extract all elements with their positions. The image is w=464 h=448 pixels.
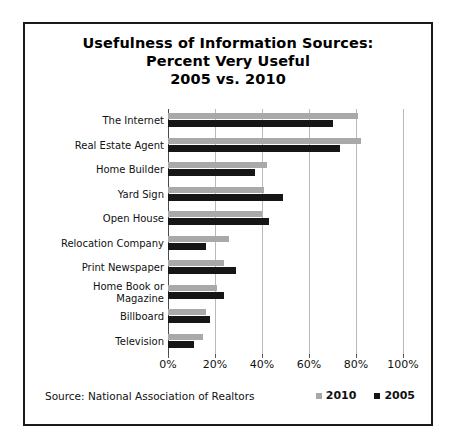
bar-group — [168, 281, 403, 306]
chart-footer: Source: National Association of Realtors… — [25, 386, 431, 414]
chart-title-line-3: 2005 vs. 2010 — [25, 70, 431, 88]
chart-legend: 2010 2005 — [316, 389, 415, 402]
bar-2005[interactable] — [168, 120, 333, 127]
bar-2005[interactable] — [168, 194, 283, 201]
category-label: Home Builder — [43, 164, 164, 176]
x-tick-label: 80% — [344, 358, 368, 371]
bar-2010[interactable] — [168, 260, 224, 266]
legend-label-2010: 2010 — [326, 389, 357, 402]
source-note: Source: National Association of Realtors — [45, 390, 255, 402]
bar-group — [168, 109, 403, 134]
bar-group — [168, 256, 403, 281]
legend-swatch-2005 — [374, 393, 380, 399]
chart-title: Usefulness of Information Sources: Perce… — [25, 34, 431, 88]
bar-group — [168, 134, 403, 159]
x-tick-label: 40% — [250, 358, 274, 371]
bar-2005[interactable] — [168, 267, 236, 274]
category-label: Billboard — [43, 311, 164, 323]
category-label: Home Book or Magazine — [43, 281, 164, 304]
gridline-100 — [403, 109, 404, 354]
bar-group — [168, 207, 403, 232]
bar-2010[interactable] — [168, 138, 361, 144]
chart-title-line-1: Usefulness of Information Sources: — [25, 34, 431, 52]
bar-group — [168, 305, 403, 330]
chart-title-line-2: Percent Very Useful — [25, 52, 431, 70]
bar-2010[interactable] — [168, 162, 267, 168]
x-tick-label: 0% — [159, 358, 176, 371]
category-label: Real Estate Agent — [43, 140, 164, 152]
bar-2010[interactable] — [168, 285, 217, 291]
bar-2010[interactable] — [168, 236, 229, 242]
bar-2010[interactable] — [168, 187, 264, 193]
legend-item-2005[interactable]: 2005 — [374, 389, 415, 402]
category-label: Television — [43, 336, 164, 348]
bar-group — [168, 232, 403, 257]
plot-area — [168, 109, 403, 354]
bar-2005[interactable] — [168, 292, 224, 299]
bar-2010[interactable] — [168, 334, 203, 340]
bar-2005[interactable] — [168, 243, 206, 250]
bar-2010[interactable] — [168, 113, 358, 119]
category-label: The Internet — [43, 115, 164, 127]
bar-2010[interactable] — [168, 309, 206, 315]
bar-2005[interactable] — [168, 341, 194, 348]
legend-swatch-2010 — [316, 393, 322, 399]
category-label: Relocation Company — [43, 238, 164, 250]
bar-2005[interactable] — [168, 169, 255, 176]
category-label: Open House — [43, 213, 164, 225]
legend-item-2010[interactable]: 2010 — [316, 389, 357, 402]
x-tick-label: 60% — [297, 358, 321, 371]
bar-2010[interactable] — [168, 211, 262, 217]
bar-2005[interactable] — [168, 218, 269, 225]
bar-2005[interactable] — [168, 316, 210, 323]
bar-2005[interactable] — [168, 145, 340, 152]
value-axis-labels: 0%20%40%60%80%100% — [168, 358, 403, 374]
category-axis-labels: The InternetReal Estate AgentHome Builde… — [43, 109, 164, 354]
bar-group — [168, 330, 403, 355]
x-tick-label: 100% — [387, 358, 418, 371]
legend-label-2005: 2005 — [384, 389, 415, 402]
category-label: Yard Sign — [43, 189, 164, 201]
bar-group — [168, 183, 403, 208]
chart-card: Usefulness of Information Sources: Perce… — [23, 22, 433, 426]
x-tick-label: 20% — [203, 358, 227, 371]
category-label: Print Newspaper — [43, 262, 164, 274]
bar-group — [168, 158, 403, 183]
